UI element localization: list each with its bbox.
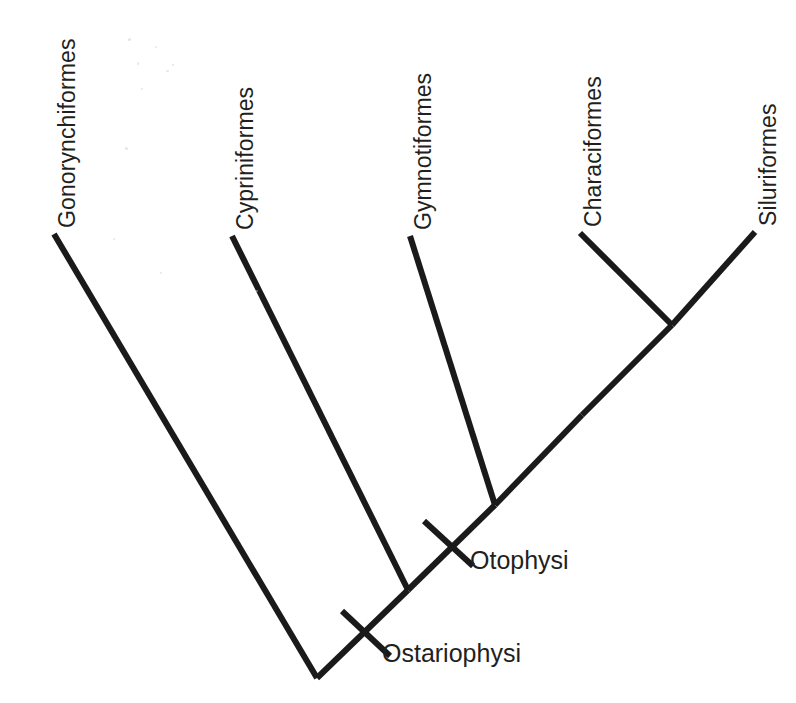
scan-speck [141,88,143,90]
cladogram-figure: Gonorynchiformes Cypriniformes Gymnotifo… [0,0,796,703]
scan-speck [155,46,157,48]
backbone-gymnotiformes-node-to-characiformes-clade [495,415,582,505]
scan-speck [256,290,258,292]
siluriformes-branch [672,232,755,325]
taxon-label-cypriniformes: Cypriniformes [234,87,257,230]
scan-speck [172,64,174,66]
scan-speck [137,62,139,65]
taxon-label-siluriformes: Siluriformes [757,103,780,226]
taxon-label-gymnotiformes: Gymnotiformes [412,73,435,230]
tree-drawing [0,0,796,703]
scan-speck [113,238,115,240]
scan-speck [166,70,169,72]
gonorynchiformes-branch [54,234,317,678]
scan-speck [128,38,131,41]
taxon-label-gonorynchiformes: Gonorynchiformes [56,38,79,228]
otophysi-tick-icon [424,521,473,566]
cypriniformes-branch [232,236,408,590]
taxon-label-characiformes: Characiformes [582,76,605,227]
clade-label-otophysi: Otophysi [470,548,569,573]
scan-speck [125,147,128,150]
backbone-characiformes-clade-to-split [582,325,672,415]
clade-label-ostariophysi: Ostariophysi [382,641,521,666]
gymnotiformes-branch [410,236,495,505]
characiformes-branch [580,233,672,325]
scan-speck [160,272,162,274]
